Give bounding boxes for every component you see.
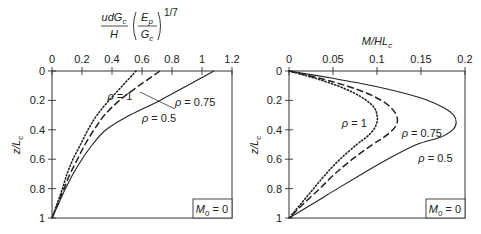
- left-xtitle-numerator: udGc: [102, 11, 127, 26]
- y-tick-label: 0.8: [267, 183, 282, 195]
- x-tick-label: 0.05: [322, 53, 343, 65]
- x-tick-label: 0.8: [164, 53, 179, 65]
- chart-canvas: udGc H Ep Gc 1/7 00.20.40.60.811.2 00.20…: [0, 0, 481, 234]
- left-paren-open: [134, 12, 137, 40]
- right-curve-labels: ρ = 1ρ = 0.75ρ = 0.5: [341, 117, 453, 164]
- x-tick-label: 0: [49, 53, 55, 65]
- left-xtitle-denominator: H: [110, 28, 118, 40]
- curve-dashed: [289, 71, 397, 218]
- y-tick-label: 1: [276, 212, 282, 224]
- right-x-axis-title: M/HLc: [362, 35, 392, 50]
- curve-solid: [289, 71, 456, 218]
- curve-label: ρ = 0.75: [401, 127, 442, 139]
- x-tick-label: 0.15: [410, 53, 431, 65]
- x-tick-label: 0.1: [369, 53, 384, 65]
- right-plot-frame: [289, 71, 465, 218]
- curve-solid: [52, 71, 214, 218]
- x-tick-label: 1: [199, 53, 205, 65]
- x-tick-label: 1.2: [224, 53, 239, 65]
- right-annotation-box: M0 = 0: [426, 199, 465, 218]
- curve-label: ρ = 1: [107, 90, 133, 102]
- curve-dotted: [289, 71, 377, 218]
- left-xtitle-exponent: 1/7: [164, 7, 178, 18]
- x-tick-label: 0.2: [457, 53, 472, 65]
- y-tick-label: 0.2: [30, 94, 45, 106]
- y-tick-label: 0.4: [30, 124, 45, 136]
- left-x-ticks: 00.20.40.60.811.2: [49, 53, 240, 75]
- right-curves: [289, 71, 456, 218]
- left-curves: [52, 71, 214, 218]
- right-x-ticks: 00.050.10.150.2: [286, 53, 473, 75]
- y-tick-label: 0: [276, 65, 282, 77]
- y-tick-label: 0: [39, 65, 45, 77]
- y-tick-label: 0.2: [267, 94, 282, 106]
- x-tick-label: 0.2: [74, 53, 89, 65]
- y-tick-label: 0.6: [30, 153, 45, 165]
- curve-label: ρ = 0.75: [174, 96, 215, 108]
- right-y-axis-title: z/Lc: [248, 136, 263, 156]
- x-tick-label: 0: [286, 53, 292, 65]
- left-xtitle-paren-den: Gc: [141, 28, 154, 43]
- curve-dashed: [52, 71, 160, 218]
- left-y-axis-title: z/Lc: [10, 136, 25, 156]
- left-x-axis-title: udGc H Ep Gc 1/7: [101, 7, 178, 43]
- y-tick-label: 0.8: [30, 183, 45, 195]
- left-chart: udGc H Ep Gc 1/7 00.20.40.60.811.2 00.20…: [10, 7, 240, 224]
- curve-label: ρ = 0.5: [417, 152, 452, 164]
- left-label-leader-line: [140, 92, 175, 109]
- left-paren-close: [158, 12, 161, 40]
- curve-label: ρ = 1: [341, 117, 367, 129]
- y-tick-label: 1: [39, 212, 45, 224]
- y-tick-label: 0.6: [267, 153, 282, 165]
- right-chart: M/HLc 00.050.10.150.2 00.20.40.60.81 z/L…: [248, 35, 473, 224]
- x-tick-label: 0.4: [104, 53, 119, 65]
- left-annotation-box: M0 = 0: [193, 199, 232, 218]
- x-tick-label: 0.6: [134, 53, 149, 65]
- left-xtitle-paren-num: Ep: [141, 11, 153, 26]
- curve-label: ρ = 0.5: [141, 112, 176, 124]
- y-tick-label: 0.4: [267, 124, 282, 136]
